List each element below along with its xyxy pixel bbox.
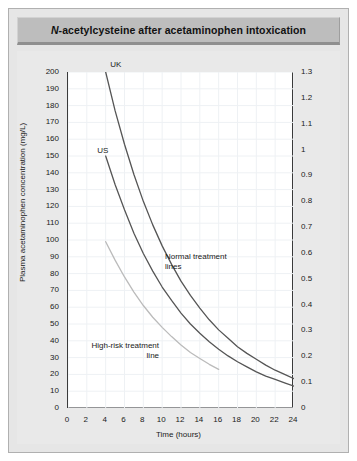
y-tick-label-right: 0.1 bbox=[301, 377, 331, 386]
y-tick-label-left: 50 bbox=[29, 319, 59, 328]
y-tick-label-left: 150 bbox=[29, 151, 59, 160]
y-tick-label-right: 0.3 bbox=[301, 325, 331, 334]
y-tick-label-left: 160 bbox=[29, 134, 59, 143]
normal-treatment-label-line2: lines bbox=[165, 262, 227, 272]
y-tick-label-right: 0.2 bbox=[301, 351, 331, 360]
high-risk-label-line2: line bbox=[91, 351, 159, 361]
normal-treatment-label-line1: Normal treatment bbox=[165, 252, 227, 262]
y-tick-label-right: 0 bbox=[301, 403, 331, 412]
uk-label: UK bbox=[110, 60, 121, 70]
x-axis-label: Time (hours) bbox=[0, 430, 357, 439]
y-tick-label-right: 0.8 bbox=[301, 196, 331, 205]
y-tick-label-left: 120 bbox=[29, 201, 59, 210]
y-tick-label-left: 100 bbox=[29, 235, 59, 244]
y-tick-label-right: 0.7 bbox=[301, 222, 331, 231]
title-italic-prefix: N bbox=[51, 24, 59, 36]
y-tick-label-left: 70 bbox=[29, 285, 59, 294]
y-axis-left-label: Plasma acetaminophen concentration (mg/L… bbox=[18, 53, 27, 353]
high-risk-label: High-risk treatmentline bbox=[91, 341, 159, 361]
y-tick-label-left: 30 bbox=[29, 353, 59, 362]
y-tick-label-left: 80 bbox=[29, 269, 59, 278]
us-label: US bbox=[97, 146, 108, 156]
x-tick-label: 24 bbox=[281, 415, 305, 424]
y-tick-label-right: 0.4 bbox=[301, 300, 331, 309]
page-title: N-acetylcysteine after acetaminophen int… bbox=[51, 24, 306, 36]
y-tick-label-left: 140 bbox=[29, 168, 59, 177]
y-tick-label-left: 0 bbox=[29, 403, 59, 412]
y-tick-label-right: 1.2 bbox=[301, 93, 331, 102]
y-tick-label-left: 170 bbox=[29, 117, 59, 126]
y-tick-label-left: 110 bbox=[29, 218, 59, 227]
y-tick-label-right: 0.9 bbox=[301, 170, 331, 179]
y-tick-label-right: 1 bbox=[301, 145, 331, 154]
y-tick-label-left: 180 bbox=[29, 101, 59, 110]
y-tick-label-right: 1.3 bbox=[301, 67, 331, 76]
y-tick-label-left: 130 bbox=[29, 185, 59, 194]
title-rest: -acetylcysteine after acetaminophen into… bbox=[59, 24, 307, 36]
y-tick-label-left: 90 bbox=[29, 252, 59, 261]
y-tick-label-left: 60 bbox=[29, 302, 59, 311]
y-tick-label-left: 200 bbox=[29, 67, 59, 76]
high-risk-label-line1: High-risk treatment bbox=[91, 341, 159, 351]
normal-treatment-label: Normal treatmentlines bbox=[165, 252, 227, 272]
y-tick-label-right: 1.1 bbox=[301, 119, 331, 128]
y-tick-label-left: 20 bbox=[29, 369, 59, 378]
y-tick-label-right: 0.5 bbox=[301, 274, 331, 283]
y-tick-label-left: 190 bbox=[29, 84, 59, 93]
chart-title-bar: N-acetylcysteine after acetaminophen int… bbox=[17, 17, 340, 45]
y-tick-label-right: 0.6 bbox=[301, 248, 331, 257]
y-tick-label-left: 10 bbox=[29, 386, 59, 395]
y-tick-label-left: 40 bbox=[29, 336, 59, 345]
